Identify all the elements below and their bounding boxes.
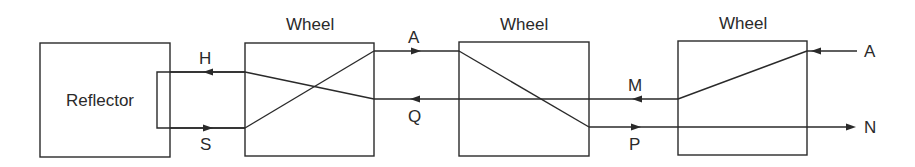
arrow-q-left-icon [410,96,420,103]
reflector: Reflector [40,43,245,157]
wheel-left-box [245,43,374,156]
wheel-left-wire-up [245,51,374,128]
signal-label-q: Q [408,107,421,126]
signal-label-n: N [864,118,876,137]
rotor-diagram: Reflector Wheel Wheel Wheel H S [0,0,915,167]
wheel-right-wire-diagonal [678,51,807,99]
wheel-middle-wire-diagonal [459,51,589,127]
wheel-left-wire-down [245,72,374,99]
wheel-middle: Wheel [459,15,589,156]
arrow-a-right-icon [411,48,421,55]
wheel-left-label: Wheel [286,15,334,34]
arrow-s-right-icon [203,125,213,132]
arrow-m-left-icon [632,96,642,103]
signal-label-a-mid: A [408,28,420,47]
reflector-label: Reflector [66,91,134,110]
signal-label-h: H [199,49,211,68]
arrow-a-input-left-icon [811,48,821,55]
arrow-n-right-icon [846,124,856,131]
signal-label-m: M [628,76,642,95]
signal-label-s: S [200,135,211,154]
wheel-right-label: Wheel [719,14,767,33]
arrow-h-left-icon [203,69,213,76]
arrow-p-right-icon [631,124,641,131]
wheel-left: Wheel [245,15,374,156]
signal-label-p: P [629,135,640,154]
signal-label-a-input: A [864,42,876,61]
wheel-middle-label: Wheel [500,15,548,34]
wheel-right: Wheel [678,14,807,155]
